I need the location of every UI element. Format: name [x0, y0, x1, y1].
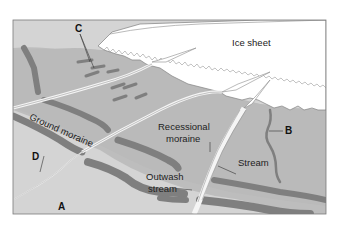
moraine-right-3 [160, 198, 186, 200]
recessional-moraine-label-line2: moraine [166, 134, 200, 144]
letter-d: D [32, 152, 39, 162]
outwash-stream-label-line1: Outwash [146, 172, 184, 182]
letter-a: A [58, 202, 65, 212]
outwash-stream-label-line2: stream [148, 184, 177, 194]
recessional-moraine-label-line1: Recessional [158, 122, 210, 132]
letter-c: C [75, 24, 82, 34]
stream-label: Stream [238, 158, 269, 168]
letter-b: B [285, 126, 292, 136]
glacial-landforms-diagram [0, 0, 339, 236]
ice-sheet-label: Ice sheet [232, 38, 271, 48]
drumlin-4 [108, 70, 118, 72]
